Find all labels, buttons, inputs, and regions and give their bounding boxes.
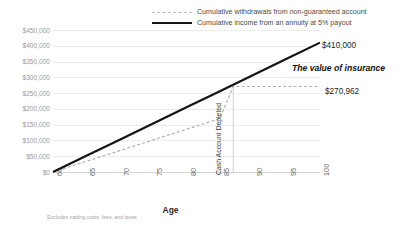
annuity-series-line: [53, 43, 320, 172]
chart-footnote: Excludes trading costs, fees, and taxes: [47, 214, 137, 220]
callout-annuity-total: $410,000: [322, 41, 356, 50]
annotation-value-of-insurance: The value of insurance: [292, 63, 385, 73]
withdrawals-series-line: [53, 86, 320, 172]
annotation-cash-account-depleted: Cash Account Depleted: [215, 103, 222, 175]
series-lines: [0, 0, 401, 230]
chart-container: Cumulative withdrawals from non-guarante…: [0, 0, 401, 230]
callout-withdrawal-total: $270,962: [325, 87, 359, 96]
